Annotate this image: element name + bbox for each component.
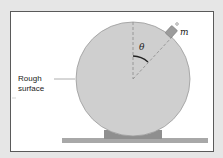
mass-label: m: [180, 27, 189, 37]
mass-dot: [176, 23, 179, 26]
rough-surface-label: Rough surface: [18, 74, 44, 94]
surface-label-line1: Rough: [18, 74, 44, 84]
surface-label-line2: surface: [18, 84, 44, 94]
theta-label: θ: [139, 42, 144, 52]
